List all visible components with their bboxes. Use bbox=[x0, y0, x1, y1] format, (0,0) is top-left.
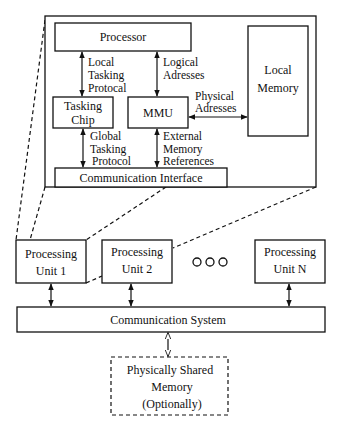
shared-memory-label-line2: Memory bbox=[151, 380, 192, 394]
edge-label-line: Tasking bbox=[88, 69, 124, 82]
edge-label-line: Adresses bbox=[195, 102, 237, 114]
edge-label-line: Protocol bbox=[92, 155, 131, 167]
dashed-connector bbox=[86, 276, 102, 283]
communication-system-block: Communication System bbox=[17, 307, 325, 332]
pu1-label-line1: Processing bbox=[25, 247, 77, 261]
edge-label-line: Global bbox=[90, 130, 121, 142]
local-memory-label-line2: Memory bbox=[257, 81, 298, 95]
dashed-connector bbox=[173, 187, 316, 248]
processing-unit-n: Processing Unit N bbox=[255, 240, 325, 283]
mmu-block: MMU bbox=[128, 97, 188, 128]
processor-label: Processor bbox=[100, 30, 147, 44]
communication-interface-block: Communication Interface bbox=[55, 168, 227, 187]
system-architecture-diagram: Processor Local Memory Tasking Chip MMU … bbox=[0, 0, 338, 430]
pu2-label-line1: Processing bbox=[111, 245, 163, 259]
processing-unit-2: Processing Unit 2 bbox=[102, 240, 172, 283]
local-memory-block: Local Memory bbox=[248, 26, 308, 136]
tasking-chip-label-line2: Chip bbox=[71, 113, 94, 127]
dashed-connector bbox=[16, 20, 45, 240]
pun-label-line2: Unit N bbox=[274, 262, 307, 276]
communication-system-label: Communication System bbox=[110, 313, 226, 327]
pu2-label-line2: Unit 2 bbox=[122, 262, 152, 276]
pu1-label-line2: Unit 1 bbox=[36, 264, 66, 278]
tasking-chip-block: Tasking Chip bbox=[53, 97, 113, 128]
edge-label-line: Protocal bbox=[88, 82, 126, 94]
ellipsis-icon bbox=[193, 258, 227, 266]
local-memory-label-line1: Local bbox=[264, 63, 292, 77]
edge-label-line: References bbox=[163, 155, 215, 167]
dashed-connector bbox=[30, 187, 45, 240]
communication-interface-label: Communication Interface bbox=[80, 171, 203, 185]
tasking-chip-label-line1: Tasking bbox=[64, 99, 102, 113]
mmu-label: MMU bbox=[143, 106, 173, 120]
edge-label-line: Local bbox=[88, 56, 114, 68]
processor-block: Processor bbox=[55, 23, 191, 51]
shared-memory-label-line1: Physically Shared bbox=[127, 363, 213, 377]
processing-unit-1: Processing Unit 1 bbox=[16, 240, 86, 283]
shared-memory-block: Physically Shared Memory (Optionally) bbox=[111, 357, 228, 415]
physical-addresses-label: Physical Adresses bbox=[195, 90, 237, 114]
edge-label-line: Logical bbox=[163, 56, 198, 69]
edge-label-line: Adresses bbox=[163, 69, 205, 81]
shared-memory-label-line3: (Optionally) bbox=[142, 397, 201, 411]
edge-label-line: External bbox=[163, 130, 202, 142]
dashed-connector bbox=[86, 187, 166, 240]
pun-label-line1: Processing bbox=[264, 245, 316, 259]
